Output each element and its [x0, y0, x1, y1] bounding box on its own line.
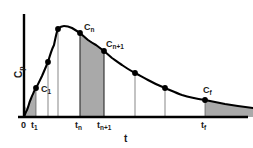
- y-axis-label: Cp: [14, 66, 24, 78]
- shaded-region-terminal-tail: [205, 100, 253, 117]
- data-point-peak: [55, 26, 61, 32]
- data-point-c1: [33, 85, 39, 91]
- data-point-cn: [77, 30, 83, 36]
- x-tick-label-tf: tf: [201, 121, 206, 130]
- x-tick-label-tn1: tn+1: [97, 121, 111, 130]
- curve-label-c1: C1: [41, 85, 51, 94]
- curve-label-cf: Cf: [203, 86, 212, 95]
- data-point-6: [132, 70, 138, 76]
- data-point-cf: [202, 97, 208, 103]
- plasma-concentration-time-figure: Cp t 0 t1 tn tn+1 tf C1 Cn Cn+1 Cf: [0, 0, 253, 148]
- x-tick-label-0: 0: [21, 121, 26, 130]
- x-tick-label-tn: tn: [75, 121, 82, 130]
- curve-label-cn: Cn: [84, 23, 94, 32]
- x-axis-label: t: [124, 134, 127, 144]
- shaded-region-trapezoid-n: [80, 33, 104, 117]
- data-point-7: [162, 85, 168, 91]
- curve-label-cn1: Cn+1: [106, 40, 124, 49]
- x-tick-label-t1: t1: [31, 121, 38, 130]
- data-point-2: [45, 59, 51, 65]
